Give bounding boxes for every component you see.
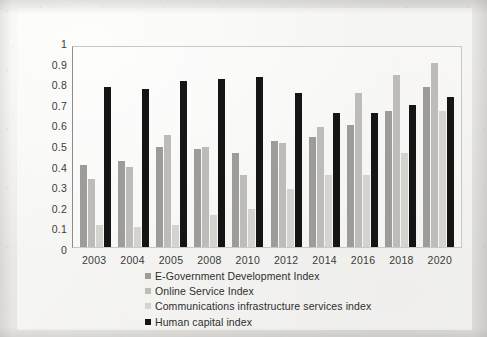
bar-group-2005 (152, 47, 190, 247)
bar-2020-series-2 (439, 111, 446, 247)
bar-2005-series-1 (164, 135, 171, 247)
y-tick-5: 0.5 (52, 142, 67, 152)
y-tick-6: 0.4 (52, 163, 67, 173)
chart-legend: E-Government Development IndexOnline Ser… (145, 270, 371, 328)
x-tick-2016: 2016 (344, 254, 382, 266)
bar-groups (73, 47, 461, 247)
y-tick-10: 0 (61, 245, 67, 255)
y-tick-3: 0.7 (52, 101, 67, 111)
bar-2016-series-3 (371, 113, 378, 247)
bar-2014-series-3 (333, 113, 340, 247)
legend-item-2: Communications infrastructure services i… (145, 300, 371, 312)
y-tick-7: 0.3 (52, 183, 67, 193)
bar-group-2012 (267, 47, 305, 247)
bar-group-2020 (420, 47, 458, 247)
legend-item-0: E-Government Development Index (145, 270, 371, 282)
bar-2014-series-2 (325, 175, 332, 247)
bar-2016-series-1 (355, 93, 362, 247)
bar-2010-series-2 (248, 209, 255, 247)
bar-2018-series-2 (401, 153, 408, 247)
bar-2020-series-1 (431, 63, 438, 247)
legend-label-2: Communications infrastructure services i… (155, 300, 371, 312)
x-tick-2004: 2004 (113, 254, 151, 266)
chart-figure: 10.90.80.70.60.50.40.30.20.10 2003200420… (17, 8, 472, 330)
bar-2018-series-1 (393, 75, 400, 247)
bar-2005-series-0 (156, 147, 163, 247)
bar-group-2004 (114, 47, 152, 247)
bar-2014-series-0 (309, 137, 316, 247)
x-tick-2008: 2008 (190, 254, 228, 266)
bar-2008-series-2 (210, 215, 217, 247)
bar-2012-series-3 (295, 93, 302, 247)
bar-2016-series-2 (363, 175, 370, 247)
bar-2018-series-3 (409, 105, 416, 247)
bar-group-2003 (76, 47, 114, 247)
legend-item-1: Online Service Index (145, 285, 371, 297)
x-tick-2010: 2010 (229, 254, 267, 266)
y-tick-0: 1 (61, 39, 67, 49)
bar-2004-series-1 (126, 167, 133, 247)
x-tick-2018: 2018 (382, 254, 420, 266)
bar-2003-series-2 (96, 225, 103, 247)
bar-2012-series-1 (279, 143, 286, 247)
bar-2004-series-2 (134, 227, 141, 247)
bar-2016-series-0 (347, 125, 354, 247)
bar-2005-series-2 (172, 225, 179, 247)
bar-group-2016 (343, 47, 381, 247)
bar-2004-series-0 (118, 161, 125, 247)
bar-group-2014 (305, 47, 343, 247)
bar-2010-series-3 (256, 77, 263, 247)
y-tick-2: 0.8 (52, 80, 67, 90)
x-tick-2005: 2005 (152, 254, 190, 266)
legend-label-3: Human capital index (155, 316, 252, 328)
x-tick-2020: 2020 (421, 254, 459, 266)
bar-2010-series-0 (232, 153, 239, 247)
x-tick-2012: 2012 (267, 254, 305, 266)
x-axis-tick-labels: 2003200420052008201020122014201620182020 (72, 254, 462, 266)
bar-2008-series-0 (194, 149, 201, 247)
legend-label-0: E-Government Development Index (155, 270, 320, 282)
bar-2008-series-3 (218, 79, 225, 247)
plot-area (72, 46, 462, 248)
legend-swatch-icon-1 (145, 288, 151, 294)
legend-swatch-icon-2 (145, 303, 151, 309)
bar-group-2018 (382, 47, 420, 247)
bar-2008-series-1 (202, 147, 209, 247)
bar-2010-series-1 (240, 175, 247, 247)
bar-group-2008 (191, 47, 229, 247)
x-tick-2014: 2014 (305, 254, 343, 266)
legend-item-3: Human capital index (145, 316, 371, 328)
bar-2004-series-3 (142, 89, 149, 247)
bar-2020-series-0 (423, 87, 430, 247)
legend-swatch-icon-3 (145, 319, 151, 325)
y-tick-1: 0.9 (52, 60, 67, 70)
bar-2005-series-3 (180, 81, 187, 247)
bar-group-2010 (229, 47, 267, 247)
bar-2012-series-0 (271, 141, 278, 247)
legend-label-1: Online Service Index (155, 285, 254, 297)
y-axis-tick-labels: 10.90.80.70.60.50.40.30.20.10 (31, 39, 67, 255)
y-tick-8: 0.2 (52, 204, 67, 214)
legend-swatch-icon-0 (145, 273, 151, 279)
bar-2003-series-0 (80, 165, 87, 247)
x-tick-2003: 2003 (75, 254, 113, 266)
y-tick-4: 0.6 (52, 121, 67, 131)
bar-2012-series-2 (287, 189, 294, 247)
bar-2018-series-0 (385, 111, 392, 247)
bar-2020-series-3 (447, 97, 454, 247)
y-tick-9: 0.1 (52, 224, 67, 234)
bar-2014-series-1 (317, 127, 324, 247)
bar-2003-series-3 (104, 87, 111, 247)
bar-2003-series-1 (88, 179, 95, 247)
